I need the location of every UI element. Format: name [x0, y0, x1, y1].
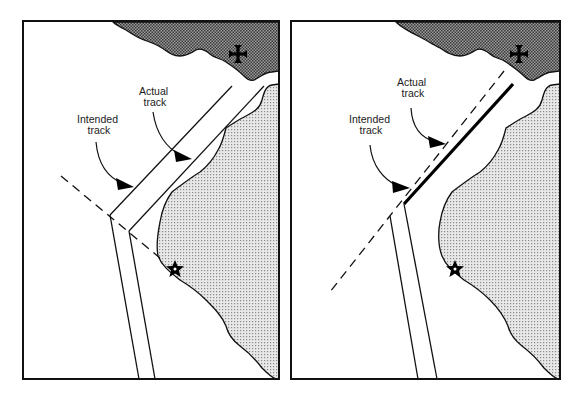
right-actual-track-arrow	[411, 108, 446, 148]
left-actual-track-arrow	[153, 112, 192, 162]
right-intended-track-arrow	[370, 145, 410, 193]
left-intended-label: Intended track	[77, 113, 121, 136]
right-channel	[390, 204, 437, 379]
right-light-landmass	[439, 84, 560, 379]
left-intended-track-arrow	[96, 142, 134, 190]
right-intended-label: Intended track	[349, 113, 393, 136]
left-light-landmass	[157, 84, 279, 379]
right-panel: Actual track Intended track	[291, 21, 560, 379]
left-actual-label: Actual track	[139, 85, 171, 108]
navigation-track-diagram: Actual track Intended track	[0, 0, 583, 401]
right-dark-landmass	[396, 22, 560, 80]
left-dark-landmass	[113, 22, 279, 80]
left-panel: Actual track Intended track	[23, 21, 279, 379]
right-actual-label: Actual track	[397, 76, 429, 99]
